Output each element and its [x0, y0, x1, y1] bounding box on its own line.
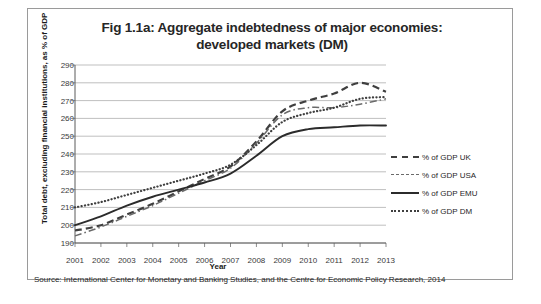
plot-area-wrapper: Total debt, excluding financial institut… [28, 9, 514, 281]
legend-swatch-icon [391, 170, 419, 180]
figure-card: Fig 1.1a: Aggregate indebtedness of majo… [27, 8, 513, 280]
legend-label: % of GDP UK [422, 153, 471, 162]
source-note: Source: International Center for Monetar… [34, 275, 445, 284]
series-line [75, 99, 386, 236]
legend-item[interactable]: % of GDP UK [391, 148, 511, 166]
legend-item[interactable]: % of GDP EMU [391, 184, 511, 202]
legend-item[interactable]: % of GDP DM [391, 202, 511, 220]
legend-swatch-icon [391, 206, 419, 216]
legend-swatch-icon [391, 188, 419, 198]
legend-swatch-icon [391, 152, 419, 162]
chart-legend: % of GDP UK% of GDP USA% of GDP EMU% of … [391, 148, 511, 220]
legend-label: % of GDP DM [422, 207, 472, 216]
chart-plot [28, 9, 514, 281]
legend-label: % of GDP EMU [422, 189, 477, 198]
legend-item[interactable]: % of GDP USA [391, 166, 511, 184]
series-line [75, 125, 386, 225]
x-axis-title: Year [68, 262, 368, 271]
legend-label: % of GDP USA [422, 171, 476, 180]
x-axis-tick-label: 2013 [370, 256, 402, 265]
series-line [75, 97, 386, 207]
